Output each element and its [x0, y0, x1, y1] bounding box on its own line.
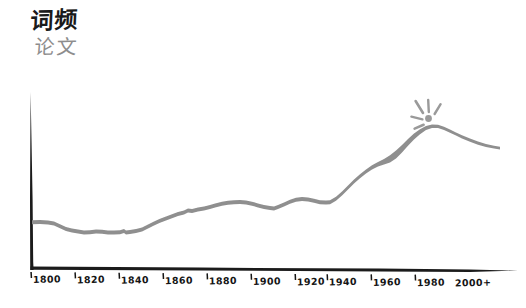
data-curve [32, 125, 500, 235]
x-tick-label: 1980 [417, 276, 445, 288]
x-tick-label: 1840 [121, 274, 149, 286]
x-tick-label: 1860 [165, 274, 193, 286]
x-tick-label: 1820 [77, 274, 105, 286]
x-tick-label: 1880 [209, 275, 237, 287]
chart-canvas: 1800 1820 1840 1860 1880 1900 1920 1940 … [0, 0, 526, 308]
x-tick-label: 1960 [373, 276, 401, 288]
x-axis-tick-labels: 1800 1820 1840 1860 1880 1900 1920 1940 … [33, 273, 492, 288]
y-axis [30, 92, 34, 270]
x-tick-label: 2000+ [455, 277, 492, 289]
x-tick-label: 1920 [297, 276, 325, 288]
hand-drawn-ngram-chart: 词频 论文 1800 1820 1840 1860 1880 190 [0, 0, 526, 308]
x-tick-label: 1940 [329, 276, 357, 288]
x-tick-label: 1900 [253, 275, 281, 287]
sparkle-burst-icon [411, 100, 440, 129]
x-tick-label: 1800 [33, 273, 61, 285]
x-axis [31, 266, 519, 272]
